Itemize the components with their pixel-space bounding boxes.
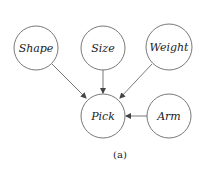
node-shape: Shape: [14, 26, 58, 70]
node-label-pick: Pick: [90, 110, 115, 123]
node-label-size: Size: [91, 42, 115, 55]
node-label-shape: Shape: [19, 42, 54, 55]
bayesian-network-diagram: Shape Size Weight Pick Arm (a): [0, 0, 208, 181]
node-label-arm: Arm: [156, 110, 181, 123]
edge-weight-to-pick: [120, 64, 152, 98]
edge-shape-to-pick: [52, 64, 86, 98]
node-weight: Weight: [146, 24, 192, 70]
node-arm: Arm: [147, 94, 191, 138]
diagram-svg: Shape Size Weight Pick Arm (a): [0, 0, 208, 181]
node-size: Size: [81, 26, 125, 70]
node-pick: Pick: [81, 94, 125, 138]
node-label-weight: Weight: [150, 41, 190, 54]
figure-caption: (a): [113, 149, 127, 160]
